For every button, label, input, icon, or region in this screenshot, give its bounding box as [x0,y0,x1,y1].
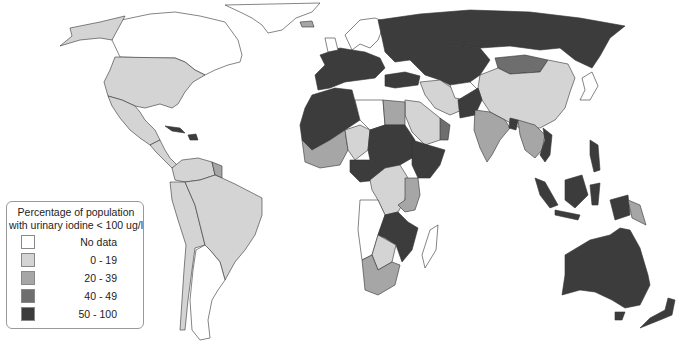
region-chad-sudan [368,125,415,168]
region-japan [580,72,598,100]
legend-item-40-49: 40 - 49 [21,289,136,303]
legend-label: 0 - 19 [47,253,117,267]
legend-item-no-data: No data [21,235,136,249]
region-bangladesh [509,118,518,130]
region-philippines [590,140,600,172]
region-egypt [383,100,405,125]
region-western-europe [315,48,385,90]
legend-label: 50 - 100 [47,307,117,321]
region-java [555,210,580,220]
region-cuba [165,126,185,133]
region-west-papua [610,195,630,220]
region-hispaniola [188,134,198,140]
region-uk [325,38,338,52]
region-central-america [150,140,178,168]
region-horn-of-africa [412,140,445,178]
region-papua-new-guinea [628,200,646,225]
map-legend: Percentage of population with urinary io… [6,201,144,329]
legend-title-line-2: with urinary iodine < 100 ug/l [7,219,145,232]
legend-item-20-39: 20 - 39 [21,271,136,285]
legend-swatch [21,253,35,267]
region-turkey [385,72,420,88]
legend-item-50-100: 50 - 100 [21,307,136,321]
legend-label: 40 - 49 [47,289,117,303]
region-new-zealand [640,298,675,328]
legend-item-0-19: 0 - 19 [21,253,136,267]
region-borneo [565,175,588,208]
legend-title-line-1: Percentage of population [7,206,145,219]
region-sumatra [535,178,558,208]
region-niger-nigeria [345,125,370,160]
region-iceland [300,21,314,27]
region-greenland [225,3,320,33]
region-tasmania [615,312,625,320]
legend-swatch [21,235,35,249]
legend-swatch [21,271,35,285]
region-oman-yemen [440,118,450,140]
legend-label: No data [47,235,117,249]
region-madagascar [422,225,438,268]
legend-label: 20 - 39 [47,271,117,285]
legend-swatch [21,289,35,303]
region-sulawesi [590,183,600,205]
legend-swatch [21,307,35,321]
legend-title: Percentage of population with urinary io… [7,206,145,232]
region-australia [562,228,650,308]
